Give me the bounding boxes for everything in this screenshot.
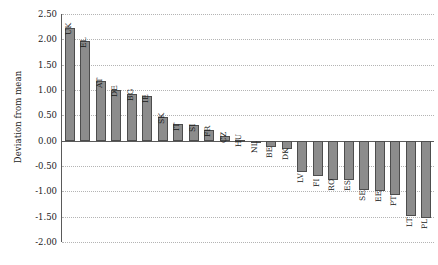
x-axis-tick-label: DK (281, 148, 290, 160)
x-axis-tick-label: PL (420, 219, 429, 230)
bar (421, 141, 431, 219)
y-axis-tick-label: -1.00 (35, 186, 57, 196)
x-axis-tick-label: SK (157, 113, 166, 124)
y-axis-tick-label: 2.50 (38, 9, 57, 19)
x-axis-tick-label: IE (141, 94, 150, 103)
y-axis-tick-label: 1.00 (38, 85, 57, 95)
bar (344, 141, 354, 180)
x-axis-tick-label: FI (312, 178, 321, 187)
y-axis-tick-label: -1.50 (35, 212, 57, 222)
bar (406, 141, 416, 216)
x-axis-tick-label: FR (203, 125, 212, 136)
y-axis-title: Deviation from mean (13, 37, 23, 197)
x-axis-tick-label: EL (79, 37, 88, 48)
x-axis-tick-label: BE (265, 147, 274, 159)
x-axis-tick-label: DE (110, 85, 119, 97)
x-axis-tick-label: BG (126, 89, 135, 101)
x-axis-tick-label: HU (234, 134, 243, 147)
bar (96, 81, 106, 140)
x-axis-tick-label: ES (343, 180, 352, 191)
x-axis-tick-label: LT (405, 217, 414, 227)
bar (375, 141, 385, 192)
bar (127, 94, 137, 141)
x-axis-tick-label: CZ (219, 131, 228, 143)
bar (328, 141, 338, 180)
x-axis-tick-label: SI (188, 124, 197, 133)
bar-series: UKELATDEBGIESKITSIFRCZHUNLBEDKLVFIROESSE… (62, 14, 434, 242)
bar (313, 141, 323, 176)
y-axis-tick-label: 0.50 (38, 110, 57, 120)
x-axis-tick-label: PT (389, 196, 398, 207)
y-axis-tick-label: 0.00 (38, 136, 57, 146)
bar (80, 41, 90, 141)
x-axis-tick-label: EE (374, 191, 383, 203)
bar (390, 141, 400, 196)
bar (65, 28, 75, 140)
x-axis-tick-label: RO (327, 178, 336, 190)
y-axis-title-wrap: Deviation from mean (0, 0, 20, 265)
x-axis-tick-label: NL (250, 141, 259, 153)
bar (111, 90, 121, 141)
x-axis-tick-label: AT (95, 78, 104, 89)
bar (359, 141, 369, 190)
x-axis-tick-label: UK (64, 23, 73, 35)
plot-area: 2.502.001.501.000.500.00-0.50-1.00-1.50-… (62, 14, 434, 242)
bar (297, 141, 307, 172)
y-axis-tick-label: -0.50 (35, 161, 57, 171)
x-axis-tick-label: LV (296, 173, 305, 183)
gridline (62, 242, 434, 243)
y-axis-tick-label: 2.00 (38, 34, 57, 44)
chart-figure: Deviation from mean 2.502.001.501.000.50… (0, 0, 438, 265)
y-axis-tick-label: 1.50 (38, 60, 57, 70)
y-axis-tick-label: -2.00 (35, 237, 57, 247)
x-axis-tick-label: SE (358, 190, 367, 201)
x-axis-tick-label: IT (172, 123, 181, 131)
